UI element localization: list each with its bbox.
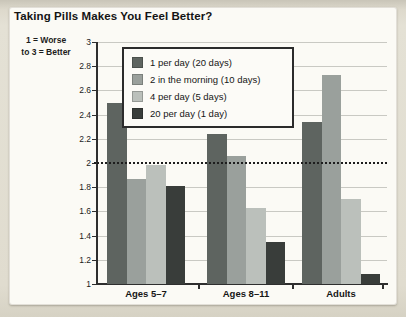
bar: [341, 199, 361, 284]
bar: [207, 134, 227, 284]
y-tick-label: 1.8: [57, 182, 91, 192]
y-axis-tick: [92, 284, 97, 285]
legend-label: 20 per day (1 day): [150, 108, 227, 119]
legend: 1 per day (20 days)2 in the morning (10 …: [122, 47, 294, 128]
x-axis-tick: [292, 285, 294, 289]
bar: [107, 103, 127, 285]
bar-cluster: [207, 134, 285, 284]
legend-label: 4 per day (5 days): [150, 91, 227, 102]
y-tick-label: 2.4: [57, 110, 91, 120]
bar-cluster: [302, 75, 380, 284]
legend-item: 4 per day (5 days): [132, 88, 284, 105]
legend-swatch: [132, 91, 143, 102]
scanned-page: Taking Pills Makes You Feel Better? 1 = …: [0, 0, 406, 317]
y-tick-label: 2.2: [57, 134, 91, 144]
y-axis-tick: [92, 66, 97, 67]
bar: [361, 274, 381, 284]
y-tick-label: 2.8: [57, 61, 91, 71]
legend-item: 2 in the morning (10 days): [132, 71, 284, 88]
bar: [166, 186, 186, 284]
bar: [322, 75, 342, 284]
bar-cluster: [107, 103, 185, 285]
y-axis-tick: [92, 211, 97, 212]
bar: [246, 208, 266, 284]
y-axis-note-line2: to 3 = Better: [5, 47, 87, 59]
legend-item: 20 per day (1 day): [132, 105, 284, 122]
y-axis-tick: [92, 260, 97, 261]
y-axis-tick: [92, 42, 97, 43]
x-axis-tick: [198, 285, 200, 289]
bar: [266, 242, 286, 284]
y-tick-label: 2: [57, 158, 91, 168]
legend-item: 1 per day (20 days): [132, 54, 284, 71]
bar: [227, 156, 247, 284]
y-tick-label: 3: [57, 37, 91, 47]
bar: [302, 122, 322, 284]
bar: [146, 165, 166, 284]
legend-swatch: [132, 74, 143, 85]
y-axis-tick: [92, 115, 97, 116]
y-tick-label: 1.6: [57, 206, 91, 216]
legend-swatch: [132, 57, 143, 68]
y-axis-tick: [92, 187, 97, 188]
legend-swatch: [132, 108, 143, 119]
bar: [127, 179, 147, 284]
y-tick-label: 2.6: [57, 85, 91, 95]
y-axis-tick: [92, 139, 97, 140]
legend-label: 1 per day (20 days): [150, 57, 232, 68]
y-tick-label: 1.2: [57, 255, 91, 265]
legend-label: 2 in the morning (10 days): [150, 74, 260, 85]
category-label: Adults: [281, 288, 401, 299]
gridline: [98, 42, 387, 43]
y-axis-tick: [92, 90, 97, 91]
y-tick-label: 1.4: [57, 231, 91, 241]
reference-line: [94, 162, 387, 164]
y-axis-tick: [92, 236, 97, 237]
x-axis-tick: [382, 285, 384, 289]
chart-title: Taking Pills Makes You Feel Better?: [14, 10, 334, 22]
